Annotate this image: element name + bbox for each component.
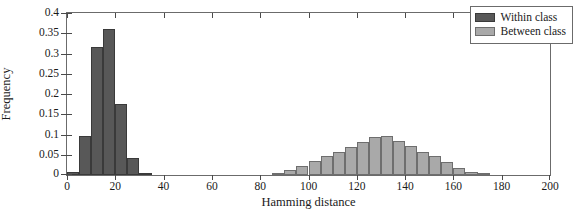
bar-between xyxy=(478,173,490,175)
x-axis-tick-inner xyxy=(67,13,68,18)
x-axis-tick-label: 140 xyxy=(396,181,413,193)
x-axis-tick-inner xyxy=(357,13,358,18)
bar-within xyxy=(103,29,115,175)
x-axis-tick-inner xyxy=(405,13,406,18)
bar-within xyxy=(139,173,151,175)
y-axis-tick-inner xyxy=(67,54,72,55)
bar-between xyxy=(369,137,381,175)
x-axis-tick-inner xyxy=(212,13,213,18)
y-axis-tick-label: 0.35 xyxy=(39,28,59,40)
bar-between xyxy=(417,152,429,175)
bar-within xyxy=(91,47,103,175)
x-axis-tick-label: 120 xyxy=(348,181,365,193)
legend-item: Within class xyxy=(475,11,566,24)
y-axis-tick-inner xyxy=(67,114,72,115)
x-axis-tick-label: 60 xyxy=(206,181,218,193)
y-axis-tick-label: 0.3 xyxy=(45,48,59,60)
y-axis-tick-inner xyxy=(67,155,72,156)
x-axis-tick-label: 180 xyxy=(493,181,510,193)
y-axis-tick-label: 0.4 xyxy=(45,7,59,19)
x-axis-tick-inner xyxy=(260,13,261,18)
x-axis-tick-label: 80 xyxy=(254,181,266,193)
bar-within xyxy=(127,158,139,175)
legend-item: Between class xyxy=(475,25,566,38)
bar-between xyxy=(465,172,477,175)
x-axis-title: Hamming distance xyxy=(66,196,551,209)
bar-between xyxy=(357,142,369,175)
x-axis-tick-label: 200 xyxy=(541,181,558,193)
y-axis-tick-inner xyxy=(67,33,72,34)
x-axis-tick-label: 40 xyxy=(158,181,170,193)
bar-between xyxy=(393,141,405,175)
legend: Within classBetween class xyxy=(470,6,573,44)
bar-between xyxy=(284,170,296,175)
bar-between xyxy=(441,162,453,175)
y-axis-tick-label: 0.1 xyxy=(45,129,59,141)
legend-label: Within class xyxy=(501,12,558,24)
x-axis-tick-label: 100 xyxy=(300,181,317,193)
bar-within xyxy=(79,136,91,175)
bar-between xyxy=(381,136,393,175)
bar-between xyxy=(296,166,308,175)
y-axis-tick-label: 0.15 xyxy=(39,109,59,121)
bar-between xyxy=(453,168,465,175)
x-axis-tick-inner xyxy=(309,13,310,18)
bar-between xyxy=(333,152,345,175)
bar-between xyxy=(309,161,321,175)
bar-between xyxy=(321,156,333,175)
legend-swatch xyxy=(475,27,495,36)
legend-swatch xyxy=(475,13,495,22)
x-axis-tick-label: 20 xyxy=(110,181,122,193)
y-axis-title: Frequency xyxy=(0,68,12,121)
legend-label: Between class xyxy=(501,26,566,38)
y-axis-tick-inner xyxy=(67,74,72,75)
x-axis-tick-inner xyxy=(164,13,165,18)
y-axis-tick-label: 0.25 xyxy=(39,68,59,80)
bar-between xyxy=(429,156,441,175)
y-axis-tick-inner xyxy=(67,94,72,95)
bar-within xyxy=(115,104,127,175)
y-axis-tick-label: 0 xyxy=(53,168,59,180)
x-axis-tick-label: 0 xyxy=(64,181,70,193)
histogram-figure: Frequency 00.050.10.150.20.250.30.350.40… xyxy=(0,0,579,218)
bar-between xyxy=(345,147,357,175)
x-axis-tick-label: 160 xyxy=(445,181,462,193)
x-axis-tick-inner xyxy=(115,13,116,18)
y-axis-tick-label: 0.05 xyxy=(39,149,59,161)
y-axis-tick-label: 0.2 xyxy=(45,88,59,100)
bar-between xyxy=(405,146,417,175)
bar-between xyxy=(272,173,284,175)
y-axis-tick-inner xyxy=(67,135,72,136)
x-axis-tick-inner xyxy=(453,13,454,18)
